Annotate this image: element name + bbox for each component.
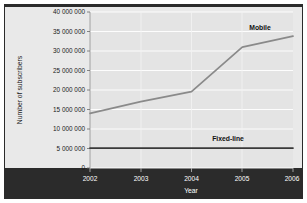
y-axis-title: Number of subscribers [16, 55, 23, 124]
y-tick-label-0: 0 [81, 164, 85, 171]
series-label-mobile: Mobile [249, 24, 271, 31]
series-label-fixed-line: Fixed-line [212, 135, 244, 142]
x-tick-label-2002: 2002 [83, 175, 98, 182]
y-tick-label-25m: 25 000 000 [53, 67, 85, 74]
y-tick-label-10m: 10 000 000 [53, 125, 85, 132]
x-tick-label-2005: 2005 [235, 175, 250, 182]
y-tick-label-15m: 15 000 000 [53, 106, 85, 113]
y-tick-label-30m: 30 000 000 [53, 47, 85, 54]
y-axis-tick-labels: 0 5 000 000 10 000 000 15 000 000 20 000… [53, 8, 85, 171]
x-tick-label-2004: 2004 [184, 175, 199, 182]
x-axis-title: Year [184, 187, 198, 194]
y-tick-label-35m: 35 000 000 [53, 28, 85, 35]
y-tick-label-20m: 20 000 000 [53, 86, 85, 93]
chart-figure: 0 5 000 000 10 000 000 15 000 000 20 000… [0, 0, 307, 203]
y-tick-label-40m: 40 000 000 [53, 8, 85, 15]
x-tick-label-2006: 2006 [285, 175, 300, 182]
y-tick-label-5m: 5 000 000 [57, 145, 86, 152]
x-axis-band [4, 168, 303, 199]
x-tick-label-2003: 2003 [134, 175, 149, 182]
subscribers-line-chart: 0 5 000 000 10 000 000 15 000 000 20 000… [0, 0, 307, 203]
